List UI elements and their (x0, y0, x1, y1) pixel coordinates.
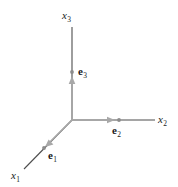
tick-dot-e1 (42, 146, 46, 150)
vector-label-e3-subscript: 3 (83, 71, 87, 80)
vector-line-e1 (49, 120, 72, 143)
vector-label-e3: e3 (78, 66, 87, 77)
axis-label-x3-subscript: 3 (67, 15, 71, 24)
axis-label-x2: x2 (158, 114, 167, 125)
vector-arrowhead-e3 (69, 76, 76, 84)
vector-label-e1: e1 (48, 150, 57, 161)
axis-label-x3: x3 (62, 10, 71, 21)
tick-dot-e3 (70, 70, 74, 74)
axes-canvas (0, 0, 178, 187)
vector-label-e2: e2 (112, 125, 121, 136)
vector-label-e1-subscript: 1 (53, 155, 57, 164)
tick-dot-e2 (117, 118, 121, 122)
axis-label-x1: x1 (11, 170, 20, 181)
axis-label-x1-subscript: 1 (16, 175, 20, 184)
vector-basis-diagram: x3 x2 x1 e3 e2 e1 (0, 0, 178, 187)
vector-arrowhead-e2 (107, 117, 115, 124)
vector-label-e2-subscript: 2 (117, 130, 121, 139)
axis-label-x2-subscript: 2 (163, 119, 167, 128)
